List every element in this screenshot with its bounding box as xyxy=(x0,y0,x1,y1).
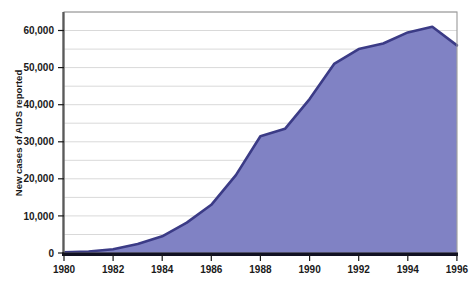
x-tick-label-1996: 1996 xyxy=(446,264,469,275)
x-tick-label-1982: 1982 xyxy=(102,264,125,275)
x-tick-label-1988: 1988 xyxy=(249,264,272,275)
y-tick-label-50000: 50,000 xyxy=(23,62,54,73)
chart-svg: 010,00020,00030,00040,00050,00060,000 19… xyxy=(0,0,475,283)
x-tick-labels: 198019821984198619881990199219941996 xyxy=(53,264,469,275)
x-tick-label-1992: 1992 xyxy=(348,264,371,275)
y-tick-label-20000: 20,000 xyxy=(23,173,54,184)
y-tick-label-0: 0 xyxy=(48,248,54,259)
y-tick-label-60000: 60,000 xyxy=(23,25,54,36)
y-axis-title: New cases of AIDS reported xyxy=(13,70,24,197)
x-tick-label-1986: 1986 xyxy=(200,264,223,275)
y-tick-label-40000: 40,000 xyxy=(23,99,54,110)
x-tick-label-1980: 1980 xyxy=(53,264,76,275)
x-tick-label-1984: 1984 xyxy=(151,264,174,275)
aids-cases-area-chart: 010,00020,00030,00040,00050,00060,000 19… xyxy=(0,0,475,283)
y-tick-label-10000: 10,000 xyxy=(23,211,54,222)
y-tick-label-30000: 30,000 xyxy=(23,136,54,147)
x-tick-label-1990: 1990 xyxy=(298,264,321,275)
x-tick-label-1994: 1994 xyxy=(397,264,420,275)
